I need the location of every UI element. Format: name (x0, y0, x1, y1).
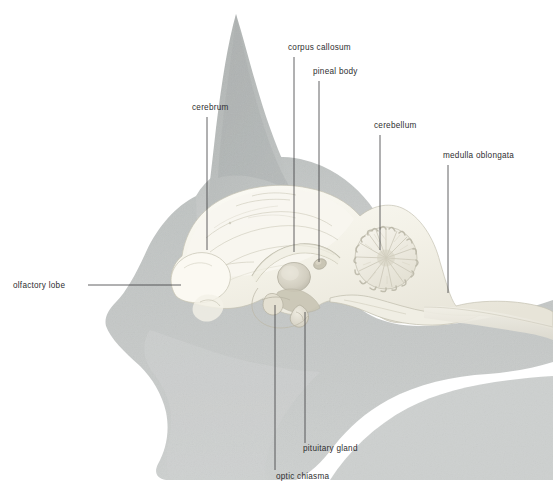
label-pituitary-gland: pituitary gland (303, 444, 358, 453)
label-cerebellum: cerebellum (374, 121, 417, 130)
label-corpus-callosum: corpus callosum (288, 43, 351, 52)
label-pineal-body: pineal body (313, 67, 358, 76)
thalamus (278, 263, 311, 292)
anatomical-figure: cerebrum corpus callosum pineal body cer… (0, 0, 553, 500)
cerebrum-marking (229, 222, 231, 224)
label-cerebrum: cerebrum (192, 103, 229, 112)
label-optic-chiasma: optic chiasma (276, 472, 330, 481)
label-medulla-oblongata: medulla oblongata (443, 151, 514, 160)
label-olfactory-lobe: olfactory lobe (13, 281, 65, 290)
brain-diagram-canvas: cerebrum corpus callosum pineal body cer… (0, 0, 553, 500)
